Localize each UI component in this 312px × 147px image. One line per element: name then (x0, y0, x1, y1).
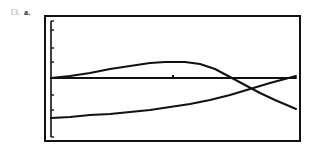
rising-curve (51, 76, 296, 118)
tick-dot (172, 75, 174, 77)
graph-plot (0, 0, 312, 147)
plot-curves (51, 62, 296, 118)
